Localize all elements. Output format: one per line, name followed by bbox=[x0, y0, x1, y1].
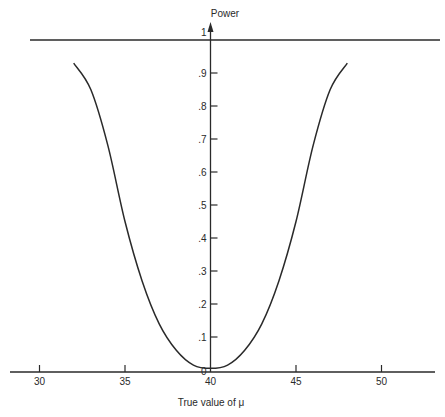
y-tick-label: .3 bbox=[198, 266, 207, 277]
y-tick-label: .7 bbox=[198, 134, 207, 145]
y-tick-label: .5 bbox=[198, 200, 207, 211]
power-chart: 30354045500.1.2.3.4.5.6.7.8.91 True valu… bbox=[0, 0, 445, 417]
x-tick-label: 40 bbox=[205, 376, 217, 387]
x-tick-label: 45 bbox=[290, 376, 302, 387]
x-tick-label: 35 bbox=[119, 376, 131, 387]
y-tick-label: .8 bbox=[198, 101, 207, 112]
y-axis-label: Power bbox=[211, 8, 240, 19]
x-tick-label: 30 bbox=[34, 376, 46, 387]
x-tick-label: 50 bbox=[376, 376, 388, 387]
y-tick-label: .2 bbox=[198, 299, 207, 310]
y-tick-label: .4 bbox=[198, 233, 207, 244]
x-axis-label: True value of μ bbox=[178, 397, 245, 408]
y-tick-label: 1 bbox=[201, 27, 207, 38]
axes: 30354045500.1.2.3.4.5.6.7.8.91 bbox=[10, 22, 440, 387]
y-tick-label: .6 bbox=[198, 167, 207, 178]
arrow-up-icon bbox=[208, 22, 214, 32]
y-tick-label: .9 bbox=[198, 68, 207, 79]
y-tick-label: .1 bbox=[198, 332, 207, 343]
